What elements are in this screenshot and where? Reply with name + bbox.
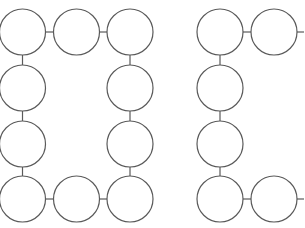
circle-chain-diagram (0, 0, 304, 228)
letter-c-left-circle-node (0, 176, 46, 222)
letter-c-right-circle-node (197, 176, 243, 222)
letter-c-left-circle-node (0, 9, 46, 55)
letter-c-right-circle-node (197, 65, 243, 111)
letter-c-left-circle-node (0, 121, 46, 167)
letter-c-right-circle-node (251, 9, 297, 55)
letter-c-left-circle-node (0, 65, 46, 111)
letter-c-right-circle-node (197, 9, 243, 55)
letter-c-left-circle-node (54, 9, 100, 55)
letter-c-right-circle-node (197, 121, 243, 167)
letter-c-left-circle-node (107, 65, 153, 111)
letter-c-left-circle-node (107, 176, 153, 222)
circle-nodes (0, 9, 297, 222)
letter-c-left-circle-node (107, 121, 153, 167)
letter-c-left-circle-node (107, 9, 153, 55)
letter-c-right-circle-node (251, 176, 297, 222)
letter-c-left-circle-node (54, 176, 100, 222)
connector-lines (23, 32, 305, 199)
